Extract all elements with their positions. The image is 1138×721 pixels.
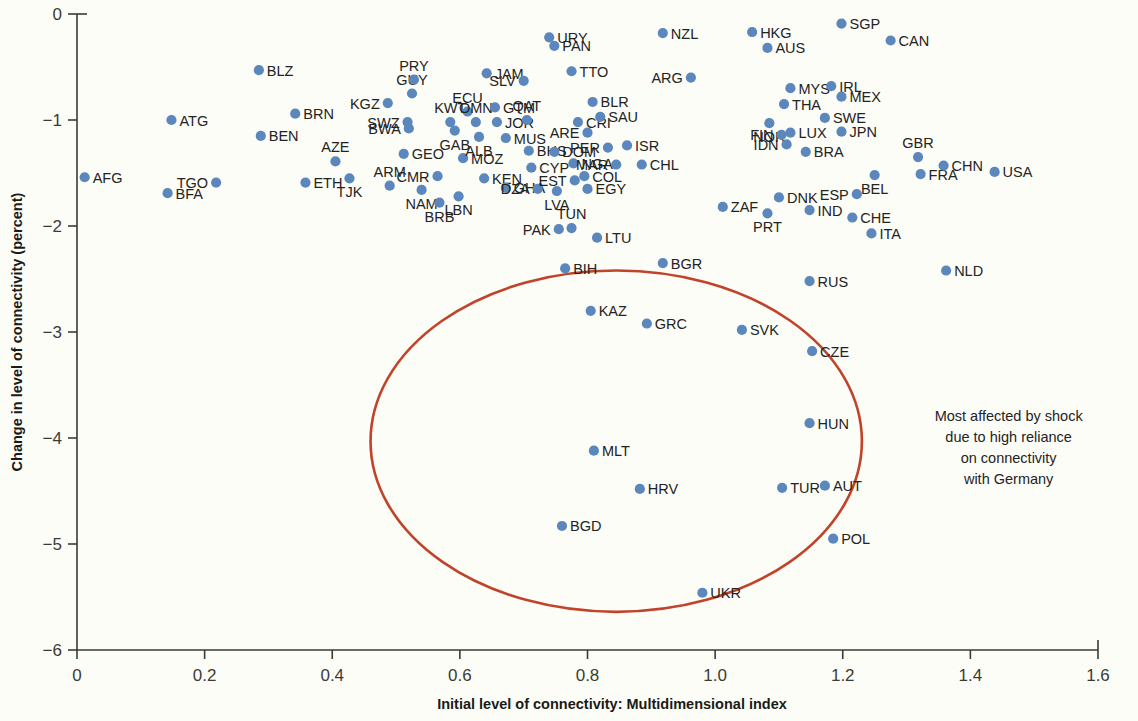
data-point[interactable]: OMN <box>459 100 493 127</box>
data-point[interactable]: HUN <box>804 416 849 432</box>
data-point[interactable]: GRC <box>642 316 687 332</box>
y-tick-label: 0 <box>53 5 62 24</box>
data-point[interactable]: TUR <box>777 480 820 496</box>
point-marker <box>570 175 580 185</box>
point-marker <box>290 109 300 119</box>
point-label: USA <box>1003 164 1033 180</box>
data-point[interactable]: LUX <box>785 125 827 141</box>
data-point[interactable]: LBN <box>444 191 472 218</box>
point-marker <box>804 418 814 428</box>
y-tick-label: −1 <box>43 111 62 130</box>
point-marker <box>163 188 173 198</box>
data-point[interactable]: CAN <box>886 33 930 49</box>
data-point[interactable]: BEL <box>861 170 888 197</box>
point-label: BRA <box>814 144 844 160</box>
data-point[interactable]: NLD <box>941 263 983 279</box>
data-point[interactable]: GEO <box>399 146 444 162</box>
data-point[interactable]: HKG <box>747 25 792 41</box>
data-point[interactable]: RUS <box>804 274 848 290</box>
point-marker <box>804 205 814 215</box>
point-marker <box>524 146 534 156</box>
point-label: NLD <box>954 263 983 279</box>
data-point[interactable]: HRV <box>635 481 679 497</box>
point-label: CHN <box>952 158 983 174</box>
point-label: RUS <box>818 274 849 290</box>
data-point[interactable]: PAN <box>549 38 591 54</box>
point-label: DNK <box>787 190 818 206</box>
point-marker <box>592 233 602 243</box>
data-point[interactable]: BGR <box>658 256 703 272</box>
data-point[interactable]: ITA <box>866 226 901 242</box>
data-point[interactable]: KGZ <box>350 96 393 112</box>
data-point[interactable]: BRA <box>801 144 844 160</box>
data-point[interactable]: TTO <box>566 64 608 80</box>
data-point[interactable]: ARG <box>651 70 696 86</box>
point-label: ISR <box>635 138 659 154</box>
data-point[interactable]: SGP <box>836 16 880 32</box>
data-point[interactable]: AFG <box>80 170 123 186</box>
point-marker <box>686 73 696 83</box>
data-point[interactable]: GBR <box>902 135 933 162</box>
point-marker <box>432 171 442 181</box>
data-point[interactable]: ATG <box>166 113 208 129</box>
point-label: DZA <box>501 181 530 197</box>
point-label: LTU <box>605 230 631 246</box>
data-point[interactable]: ESP <box>820 187 862 203</box>
point-marker <box>642 318 652 328</box>
data-point[interactable]: MYS <box>785 81 830 97</box>
data-point[interactable]: LTU <box>592 230 631 246</box>
point-marker <box>588 97 598 107</box>
point-marker <box>774 192 784 202</box>
point-marker <box>407 88 417 98</box>
data-point[interactable]: MLT <box>589 443 630 459</box>
point-marker <box>549 41 559 51</box>
data-point[interactable]: IDN <box>754 137 792 153</box>
data-point[interactable]: ISR <box>622 138 659 154</box>
point-label: CAN <box>899 33 930 49</box>
data-point[interactable]: TGO <box>177 175 222 191</box>
point-marker <box>836 92 846 102</box>
data-point[interactable]: KAZ <box>586 303 627 319</box>
data-point[interactable]: BRN <box>290 106 334 122</box>
data-point[interactable]: CMR <box>397 169 443 185</box>
point-label: NZL <box>671 26 698 42</box>
point-label: PRT <box>753 219 782 235</box>
data-point[interactable]: SVK <box>737 322 779 338</box>
data-point[interactable]: ZAF <box>718 199 759 215</box>
data-point[interactable]: UKR <box>697 585 741 601</box>
data-point[interactable]: CZE <box>807 344 849 360</box>
point-label: PRY <box>399 58 429 74</box>
data-point[interactable]: POL <box>828 531 870 547</box>
data-point[interactable]: NZL <box>658 26 699 42</box>
point-marker <box>544 32 554 42</box>
point-label: MLT <box>602 443 630 459</box>
data-points: AFGBFAATGTGOBLZBENBRNETHAZETJKKGZARMGEOS… <box>80 16 1033 601</box>
data-point[interactable]: PAK <box>523 222 564 238</box>
data-point[interactable]: THA <box>779 97 821 113</box>
data-point[interactable]: BLZ <box>254 63 294 79</box>
data-point[interactable]: JPN <box>836 124 877 140</box>
point-label: QAT <box>513 98 542 114</box>
data-point[interactable]: BGD <box>557 518 602 534</box>
data-point[interactable]: AUT <box>820 478 862 494</box>
point-label: TGO <box>177 175 208 191</box>
data-point[interactable]: BEN <box>256 128 299 144</box>
point-marker <box>807 346 817 356</box>
point-marker <box>453 191 463 201</box>
point-label: ATG <box>179 113 208 129</box>
data-point[interactable]: PER <box>570 140 613 156</box>
point-marker <box>828 534 838 544</box>
data-point[interactable]: AZE <box>321 139 350 166</box>
data-point[interactable]: USA <box>990 164 1033 180</box>
data-point[interactable]: CHL <box>637 157 679 173</box>
data-point[interactable]: DNK <box>774 190 818 206</box>
data-point[interactable]: AUS <box>762 40 805 56</box>
point-label: POL <box>841 531 870 547</box>
data-point[interactable]: CHE <box>847 210 891 226</box>
point-marker <box>549 147 559 157</box>
point-label: BEN <box>269 128 299 144</box>
data-point[interactable]: BLR <box>588 94 629 110</box>
x-tick-label: 0 <box>72 666 81 685</box>
data-point[interactable]: EST <box>539 173 580 189</box>
data-point[interactable]: EGY <box>582 181 626 197</box>
